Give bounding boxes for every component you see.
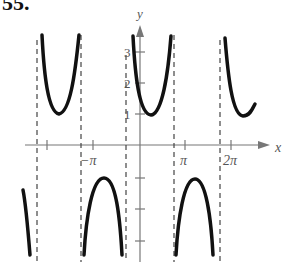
- y-axis: [136, 25, 144, 262]
- upper-branch-1: [42, 35, 79, 114]
- y-tick-1: 1: [124, 107, 131, 122]
- problem-number: 55.: [2, 0, 30, 15]
- x-tick-neg-pi: −π: [80, 153, 97, 168]
- upper-branch-3: [225, 38, 255, 116]
- y-axis-label: y: [135, 6, 143, 21]
- x-axis: [25, 141, 270, 149]
- lower-branch-2: [176, 179, 213, 255]
- x-tick-2pi: 2π: [223, 153, 238, 168]
- y-tick-2: 2: [124, 76, 131, 91]
- x-axis-label: x: [274, 140, 282, 155]
- upper-branch-2: [133, 36, 171, 115]
- secant-graph: 55. x y 3 2 1 −π π 2π: [0, 0, 287, 265]
- vertical-asymptotes: [37, 35, 220, 262]
- lower-branch-1: [84, 178, 122, 255]
- lower-branch-0: [23, 190, 30, 255]
- x-tick-pi: π: [180, 153, 188, 168]
- y-tick-3: 3: [124, 45, 131, 60]
